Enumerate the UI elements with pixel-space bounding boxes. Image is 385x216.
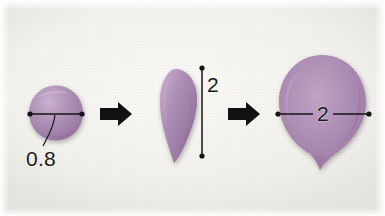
step-1-ball bbox=[29, 86, 83, 141]
top-edge-highlight bbox=[0, 0, 385, 9]
step-2-teardrop bbox=[160, 69, 197, 163]
figure-canvas: 0.8 2 2 bbox=[0, 0, 385, 216]
bottom-edge-highlight bbox=[0, 209, 385, 216]
right-edge-highlight bbox=[376, 0, 385, 216]
petal-width-label: 2 bbox=[317, 103, 329, 124]
dimension-teardrop-length bbox=[199, 65, 204, 158]
left-edge-highlight bbox=[0, 0, 8, 216]
ball-diameter-label: 0.8 bbox=[26, 148, 56, 169]
arrow-2 bbox=[228, 102, 260, 126]
arrow-1 bbox=[100, 102, 132, 126]
teardrop-length-label: 2 bbox=[207, 74, 219, 95]
